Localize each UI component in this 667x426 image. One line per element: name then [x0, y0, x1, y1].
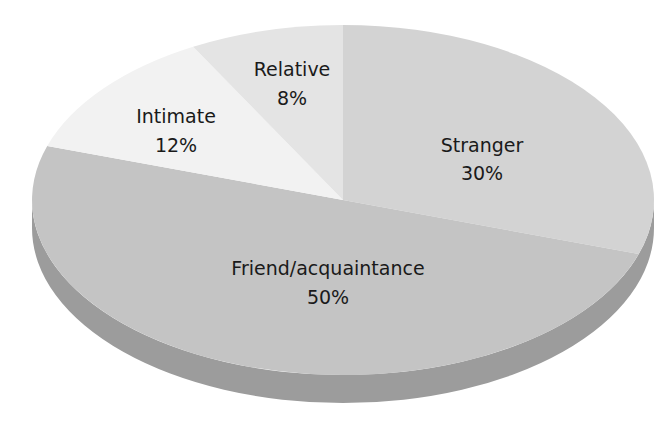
- slice-value-stranger: 30%: [461, 162, 503, 184]
- slice-value-friend: 50%: [307, 286, 349, 308]
- slice-label-intimate: Intimate: [136, 105, 216, 127]
- pie-chart: Stranger 30% Friend/acquaintance 50% Int…: [0, 0, 667, 426]
- slice-value-relative: 8%: [277, 87, 307, 109]
- slice-value-intimate: 12%: [155, 134, 197, 156]
- slice-label-relative: Relative: [254, 58, 331, 80]
- pie-slices: [32, 25, 654, 375]
- slice-label-stranger: Stranger: [441, 134, 524, 156]
- slice-label-friend: Friend/acquaintance: [231, 257, 424, 279]
